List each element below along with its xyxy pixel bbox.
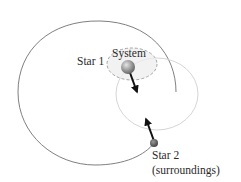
star1-label: Star 1: [77, 55, 104, 67]
binary-star-diagram: System Star 1 Star 2 (surroundings): [0, 0, 241, 182]
star2-label: Star 2: [152, 149, 179, 161]
system-label: System: [112, 47, 146, 60]
surroundings-label: (surroundings): [152, 164, 220, 177]
star1-ball: [121, 60, 135, 74]
star2-ball: [150, 139, 158, 147]
